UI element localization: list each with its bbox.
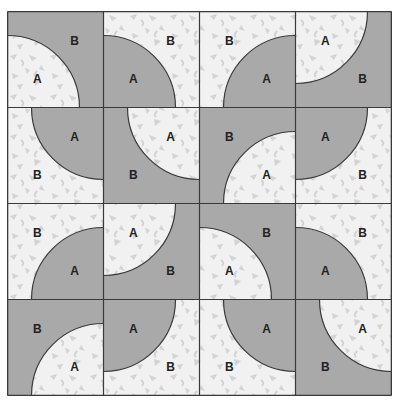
- tile-label-a: A: [358, 322, 367, 336]
- quilt-tile-r3-c0: AB: [8, 300, 104, 396]
- quilt-tile-r0-c2: AB: [200, 12, 296, 108]
- tile-label-b: B: [70, 34, 79, 48]
- tile-label-a: A: [129, 226, 138, 240]
- quilt-grid: ABABABABABABABABABABABABABABABAB: [7, 11, 392, 396]
- quilt-tile-r2-c3: AB: [296, 204, 392, 300]
- tile-label-a: A: [129, 72, 138, 86]
- tile-label-b: B: [166, 34, 175, 48]
- quilt-tile-r1-c1: AB: [104, 108, 200, 204]
- tile-label-a: A: [321, 264, 330, 278]
- tile-label-b: B: [166, 360, 175, 374]
- tile-label-a: A: [225, 264, 234, 278]
- tile-label-a: A: [262, 322, 271, 336]
- quilt-tile-r0-c0: AB: [8, 12, 104, 108]
- tile-label-a: A: [166, 130, 175, 144]
- tile-label-b: B: [262, 226, 271, 240]
- tile-label-a: A: [70, 360, 79, 374]
- quilt-tile-r2-c1: AB: [104, 204, 200, 300]
- quilt-tile-r0-c3: AB: [296, 12, 392, 108]
- quilt-tile-r1-c0: AB: [8, 108, 104, 204]
- tile-label-b: B: [225, 360, 234, 374]
- quilt-tile-r2-c2: AB: [200, 204, 296, 300]
- quilt-tile-r2-c0: AB: [8, 204, 104, 300]
- tile-label-a: A: [321, 130, 330, 144]
- quilt-tile-r1-c3: AB: [296, 108, 392, 204]
- tile-label-b: B: [33, 322, 42, 336]
- tile-label-b: B: [166, 264, 175, 278]
- quilt-tile-r3-c1: AB: [104, 300, 200, 396]
- tile-label-a: A: [129, 322, 138, 336]
- quilt-tile-r3-c2: AB: [200, 300, 296, 396]
- tile-label-b: B: [321, 360, 330, 374]
- tile-label-a: A: [321, 34, 330, 48]
- tile-label-b: B: [33, 226, 42, 240]
- tile-label-b: B: [33, 168, 42, 182]
- quilt-tile-r0-c1: AB: [104, 12, 200, 108]
- quilt-diagram: ABABABABABABABABABABABABABABABAB: [7, 11, 391, 395]
- tile-label-a: A: [262, 72, 271, 86]
- tile-label-b: B: [225, 130, 234, 144]
- tile-label-b: B: [358, 72, 367, 86]
- quilt-tile-r3-c3: AB: [296, 300, 392, 396]
- tile-label-b: B: [358, 226, 367, 240]
- tile-label-a: A: [70, 130, 79, 144]
- tile-label-a: A: [33, 72, 42, 86]
- tile-label-a: A: [262, 168, 271, 182]
- tile-label-b: B: [358, 168, 367, 182]
- tile-label-b: B: [129, 168, 138, 182]
- tile-label-b: B: [225, 34, 234, 48]
- quilt-tile-r1-c2: AB: [200, 108, 296, 204]
- tile-label-a: A: [70, 264, 79, 278]
